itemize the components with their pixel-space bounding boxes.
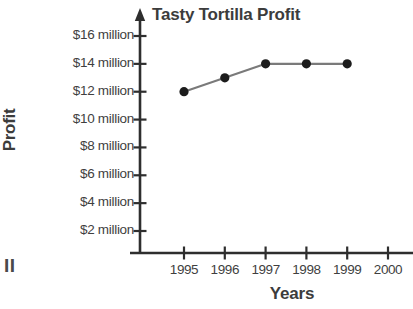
x-axis-tick-labels: 199519961997199819992000 <box>0 0 413 309</box>
line-chart: Tasty Tortilla Profit Profit Years II $2… <box>0 0 413 309</box>
x-axis-tick-label: 2000 <box>363 262 413 277</box>
